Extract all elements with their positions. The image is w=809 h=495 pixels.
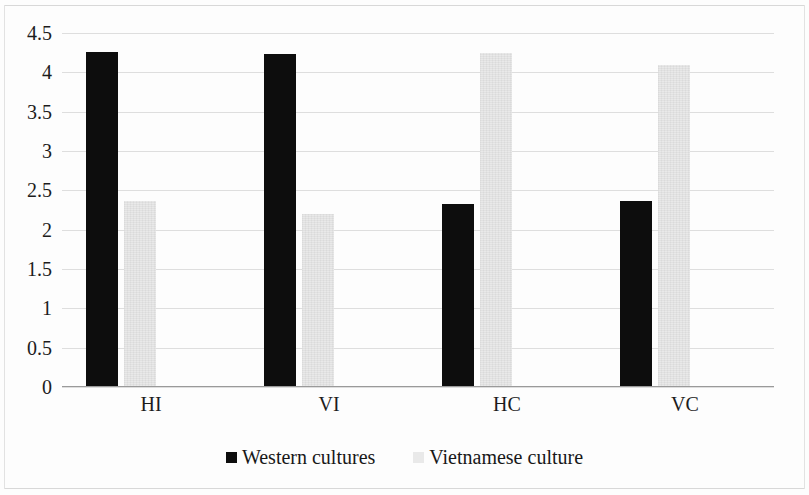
y-axis-tick-label: 4 [0, 62, 52, 82]
y-axis-tick-label: 2 [0, 220, 52, 240]
y-axis-tick-label: 0.5 [0, 338, 52, 358]
bar-vi-series-1 [302, 214, 334, 387]
x-axis-line [62, 386, 774, 387]
legend-entry-1[interactable]: Vietnamese culture [413, 446, 583, 468]
bar-hi-series-0 [86, 52, 118, 387]
bar-hc-series-1 [480, 53, 512, 387]
chart-frame-bottom-border [4, 488, 805, 489]
y-axis-tick-label: 3 [0, 141, 52, 161]
bar-chart-figure: 00.511.522.533.544.5 HIVIHCVC Western cu… [0, 0, 809, 495]
chart-frame-right-border [804, 5, 805, 489]
y-axis-tick-label: 0 [0, 377, 52, 397]
bar-hi-series-1 [124, 201, 156, 387]
x-axis-label-vi: VI [240, 393, 418, 415]
y-axis-tick-label: 1.5 [0, 259, 52, 279]
bar-vc-series-0 [620, 201, 652, 387]
legend-label: Vietnamese culture [429, 446, 583, 468]
plot-area [62, 33, 774, 387]
chart-frame-top-border [4, 5, 805, 6]
y-axis-tick-label: 2.5 [0, 180, 52, 200]
gridline [62, 33, 774, 34]
x-axis-label-vc: VC [596, 393, 774, 415]
y-axis-tick-label: 1 [0, 298, 52, 318]
legend-swatch-icon [413, 452, 424, 463]
x-axis-label-hi: HI [62, 393, 240, 415]
chart-legend: Western culturesVietnamese culture [0, 446, 809, 468]
bar-vi-series-0 [264, 54, 296, 387]
bar-vc-series-1 [658, 65, 690, 387]
legend-label: Western cultures [242, 446, 375, 468]
legend-swatch-icon [226, 452, 237, 463]
y-axis-tick-label: 4.5 [0, 23, 52, 43]
bar-hc-series-0 [442, 204, 474, 387]
x-axis-label-hc: HC [418, 393, 596, 415]
legend-entry-0[interactable]: Western cultures [226, 446, 375, 468]
gridline [62, 387, 774, 388]
y-axis-tick-label: 3.5 [0, 102, 52, 122]
